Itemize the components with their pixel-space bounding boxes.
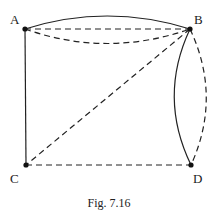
vertex-label-c: C xyxy=(10,171,19,187)
edge-ac-solid xyxy=(25,29,26,165)
vertex-label-a: A xyxy=(10,12,19,28)
edge-ab-dashed-arc xyxy=(25,29,190,44)
vertex-label-b: B xyxy=(194,12,203,28)
edge-bc-dashed xyxy=(26,29,190,165)
vertex-label-d: D xyxy=(193,171,202,187)
edge-bd-dashed-arc xyxy=(190,29,206,165)
edge-bd-solid-arc xyxy=(174,29,191,165)
vertex-d xyxy=(188,162,193,167)
edge-ab-solid-arc xyxy=(25,16,190,29)
vertex-a xyxy=(22,26,27,31)
vertex-b xyxy=(187,26,192,31)
vertex-c xyxy=(23,162,28,167)
graph-diagram xyxy=(0,0,218,211)
figure-caption: Fig. 7.16 xyxy=(0,196,218,211)
